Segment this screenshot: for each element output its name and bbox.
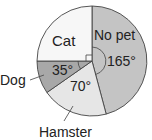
label-hamster-angle: 70°: [70, 78, 91, 94]
label-cat: Cat: [52, 32, 76, 49]
label-no-pet-angle: 165°: [107, 53, 136, 69]
label-hamster: Hamster: [39, 124, 92, 140]
pie-chart: Cat No pet 165° 35° 70° Dog Hamster: [0, 0, 152, 140]
label-no-pet: No pet: [94, 27, 135, 43]
label-dog-angle: 35°: [52, 62, 73, 78]
label-dog: Dog: [0, 72, 26, 88]
